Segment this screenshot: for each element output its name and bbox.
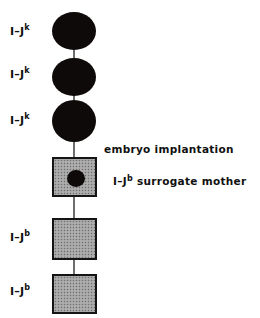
connector-line-5-6	[73, 259, 75, 275]
node-label-text-5: I–J	[10, 231, 24, 244]
annotation-surrogate-prefix: I–J	[113, 175, 127, 187]
annotation-embryo-implantation-text: embryo implantation	[104, 143, 234, 155]
connector-line-4-5	[73, 196, 75, 218]
node-label-generation-3: I–Jk	[10, 115, 30, 126]
node-label-text-2: I–J	[10, 68, 24, 81]
node-label-sup-2: k	[24, 66, 30, 75]
node-label-sup-1: k	[24, 23, 30, 32]
node-label-generation-1: I–Jk	[10, 26, 30, 37]
annotation-embryo-implantation: embryo implantation	[104, 144, 234, 155]
implanted-embryo-dot	[67, 170, 85, 187]
node-surrogate-mother-square	[52, 157, 97, 197]
annotation-surrogate-mother: I–Jb surrogate mother	[113, 176, 246, 187]
annotation-surrogate-suffix: surrogate mother	[133, 175, 246, 187]
node-label-sup-5: b	[24, 229, 30, 238]
node-label-text-6: I–J	[10, 285, 24, 298]
node-label-text-1: I–J	[10, 25, 24, 38]
node-donor-generation-3	[52, 100, 96, 142]
node-label-generation-5: I–Jb	[10, 232, 30, 243]
node-label-sup-6: b	[24, 283, 30, 292]
node-recipient-generation-6	[52, 274, 97, 314]
pedigree-diagram: I–Jk I–Jk I–Jk embryo implantation I–Jb …	[0, 0, 260, 318]
node-donor-generation-2	[52, 58, 96, 96]
node-label-text-3: I–J	[10, 114, 24, 127]
node-label-generation-6: I–Jb	[10, 286, 30, 297]
node-label-sup-3: k	[24, 112, 30, 121]
node-recipient-generation-5	[52, 218, 97, 260]
node-donor-generation-1	[52, 12, 96, 50]
node-label-generation-2: I–Jk	[10, 69, 30, 80]
